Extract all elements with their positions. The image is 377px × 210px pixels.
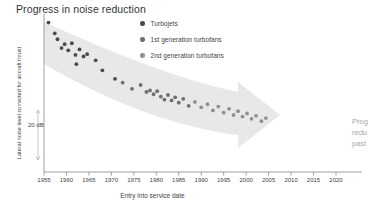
x-tick-label: 1985 [172, 177, 185, 183]
legend-label: Turbojets [151, 20, 178, 27]
x-tick-label: 1990 [195, 177, 208, 183]
legend-marker-icon [140, 53, 145, 58]
legend-label: 1st generation turbofans [151, 36, 222, 43]
legend-marker-icon [140, 21, 145, 26]
x-tick-label: 2020 [329, 177, 342, 183]
side-note-line-1: Prog [352, 116, 377, 127]
x-tick-label: 1955 [37, 177, 50, 183]
y-axis-title: Lateral noise level corrected for aircra… [16, 33, 22, 173]
x-tick-label: 2015 [307, 177, 320, 183]
scale-bar-label: 20 dB [28, 122, 44, 128]
x-tick-label: 1995 [217, 177, 230, 183]
side-note-line-3: past [352, 138, 377, 149]
x-tick-label: 1960 [60, 177, 73, 183]
scale-bar [36, 110, 40, 160]
x-tick-label: 1980 [150, 177, 163, 183]
x-axis-title-text: Entry into service date [120, 192, 184, 199]
legend-marker-icon [140, 37, 145, 42]
x-tick-label: 1975 [127, 177, 140, 183]
legend-item[interactable]: 1st generation turbofans [140, 36, 224, 43]
x-tick-label: 1965 [82, 177, 95, 183]
x-tick-label: 2005 [262, 177, 275, 183]
legend-label: 2nd generation turbofans [151, 52, 224, 59]
legend-item[interactable]: 2nd generation turbofans [140, 52, 224, 59]
chart-root: Progress in noise reduction Turbojets1st… [0, 0, 377, 210]
legend-item[interactable]: Turbojets [140, 20, 224, 27]
side-note-line-2: redu [352, 127, 377, 138]
x-axis-title: Entry into service date [0, 192, 377, 199]
x-tick-label: 1970 [105, 177, 118, 183]
x-tick-label: 2000 [239, 177, 252, 183]
side-note: Prog redu past [352, 116, 377, 149]
x-tick-label: 2010 [284, 177, 297, 183]
chart-legend: Turbojets1st generation turbofans2nd gen… [140, 20, 224, 59]
